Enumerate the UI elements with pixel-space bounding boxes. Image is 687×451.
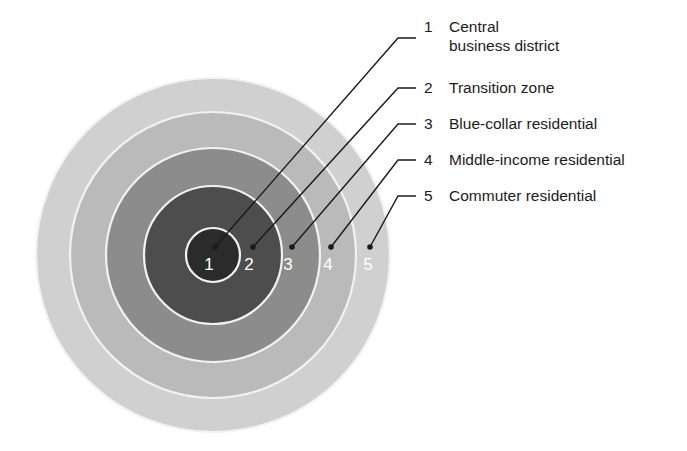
legend-label-1: Central business district [449, 17, 559, 55]
legend-label-4: Middle-income residential [449, 150, 625, 169]
legend-label-3: Blue-collar residential [449, 114, 597, 133]
legend-row-1: 1 Central business district [424, 17, 559, 55]
zone-number-3: 3 [283, 255, 292, 274]
legend-row-5: 5 Commuter residential [424, 186, 596, 205]
legend-index-4: 4 [424, 150, 440, 169]
zone-number-5: 5 [363, 255, 372, 274]
leader-dot-2 [250, 244, 256, 250]
legend-index-1: 1 [424, 17, 440, 36]
legend-label-1-line1: Central [449, 18, 499, 35]
leader-dot-4 [328, 244, 334, 250]
legend-row-4: 4 Middle-income residential [424, 150, 625, 169]
leader-dot-3 [289, 244, 295, 250]
legend-row-2: 2 Transition zone [424, 78, 554, 97]
legend-row-3: 3 Blue-collar residential [424, 114, 597, 133]
leader-dot-1 [212, 244, 218, 250]
legend-label-5: Commuter residential [449, 186, 596, 205]
concentric-zone-diagram: 1 2 3 4 5 1 Central business district 2 … [0, 0, 687, 451]
zone-number-4: 4 [323, 255, 332, 274]
leader-dot-5 [367, 244, 373, 250]
zone-number-1: 1 [204, 255, 213, 274]
legend-index-3: 3 [424, 114, 440, 133]
legend-index-2: 2 [424, 78, 440, 97]
legend-label-1-line2: business district [449, 36, 559, 55]
zone-legend: 1 Central business district 2 Transition… [424, 0, 687, 451]
legend-index-5: 5 [424, 186, 440, 205]
zone-number-2: 2 [244, 255, 253, 274]
legend-label-2: Transition zone [449, 78, 554, 97]
